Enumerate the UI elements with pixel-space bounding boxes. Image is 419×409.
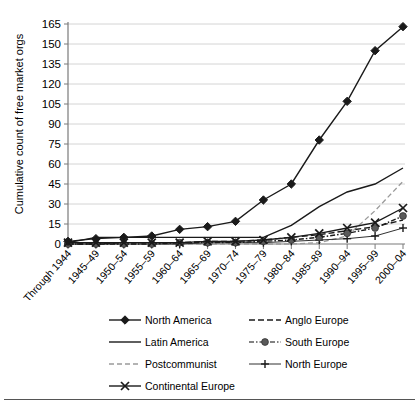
legend-label: Continental Europe: [145, 380, 235, 392]
y-tick-label: 15: [48, 218, 61, 230]
legend-label: Postcommunist: [145, 358, 217, 370]
data-point-marker: [371, 232, 379, 240]
x-tick-label: Through 1944: [21, 247, 74, 300]
legend-label: North America: [145, 314, 212, 326]
legend-item-north-europe[interactable]: North Europe: [248, 358, 347, 370]
y-tick-label: 135: [42, 58, 61, 70]
data-point-marker: [400, 213, 407, 220]
data-point-marker: [399, 204, 407, 212]
legend-label: North Europe: [285, 358, 347, 370]
data-point-marker: [261, 360, 269, 368]
data-point-marker: [262, 339, 269, 346]
chart-figure: Cumulative count of free market orgs 015…: [0, 0, 419, 409]
y-tick-label: 120: [42, 78, 61, 90]
y-tick-label: 30: [48, 198, 61, 210]
chart-legend: North AmericaAnglo EuropeLatin AmericaSo…: [0, 300, 419, 396]
series-north-america: [64, 22, 407, 245]
legend-swatch-continental-europe: [108, 380, 142, 392]
plot-area: 0153045607590105120135150165Through 1944…: [0, 0, 419, 300]
data-point-marker: [399, 224, 407, 232]
legend-label: South Europe: [285, 336, 349, 348]
y-tick-label: 75: [48, 138, 61, 150]
series-latin-america: [68, 168, 403, 243]
y-tick-label: 45: [48, 178, 61, 190]
y-tick-label: 105: [42, 98, 61, 110]
footer-rule: [4, 399, 415, 400]
legend-item-latin-america[interactable]: Latin America: [108, 336, 209, 348]
legend-item-continental-europe[interactable]: Continental Europe: [108, 380, 235, 392]
series-line: [68, 27, 403, 242]
legend-item-postcommunist[interactable]: Postcommunist: [108, 358, 217, 370]
legend-item-anglo-europe[interactable]: Anglo Europe: [248, 314, 349, 326]
data-point-marker: [121, 316, 129, 324]
legend-swatch-north-america: [108, 314, 142, 326]
y-tick-label: 0: [55, 238, 61, 250]
y-tick-label: 60: [48, 158, 61, 170]
legend-swatch-south-europe: [248, 336, 282, 348]
data-point-marker: [287, 180, 295, 188]
legend-label: Latin America: [145, 336, 209, 348]
legend-item-south-europe[interactable]: South Europe: [248, 336, 349, 348]
legend-swatch-north-europe: [248, 358, 282, 370]
data-point-marker: [175, 225, 183, 233]
y-tick-label: 165: [42, 18, 61, 30]
y-tick-label: 150: [42, 38, 61, 50]
chart-svg: 0153045607590105120135150165Through 1944…: [0, 0, 419, 300]
legend-swatch-postcommunist: [108, 358, 142, 370]
series-line: [68, 168, 403, 243]
legend-swatch-anglo-europe: [248, 314, 282, 326]
y-tick-label: 90: [48, 118, 61, 130]
legend-label: Anglo Europe: [285, 314, 349, 326]
legend-swatch-latin-america: [108, 336, 142, 348]
legend-item-north-america[interactable]: North America: [108, 314, 212, 326]
